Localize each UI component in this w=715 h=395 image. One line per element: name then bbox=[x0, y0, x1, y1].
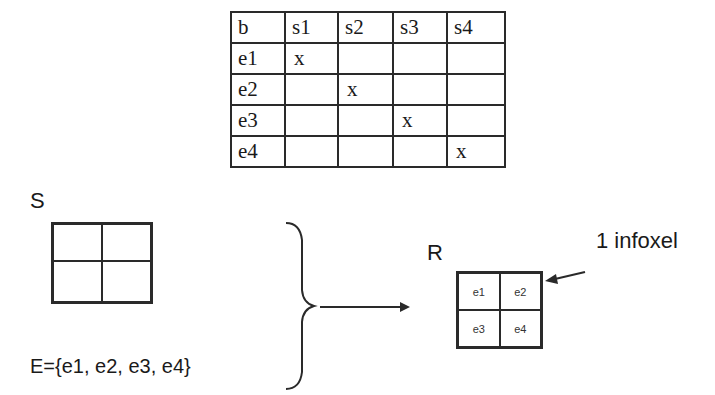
space-r-grid: e1 e2 e3 e4 bbox=[456, 271, 543, 349]
mapping-arrow-icon bbox=[320, 302, 410, 312]
infoxel-label: 1 infoxel bbox=[596, 228, 678, 254]
curly-brace-icon bbox=[286, 223, 314, 389]
r-grid-cell: e1 bbox=[458, 273, 500, 310]
r-grid-cell: e4 bbox=[500, 310, 542, 347]
r-grid-cell: e3 bbox=[458, 310, 500, 347]
r-grid-cell: e2 bbox=[500, 273, 542, 310]
infoxel-pointer-arrow-icon bbox=[545, 272, 585, 284]
connectors bbox=[0, 0, 715, 395]
diagram-canvas: b s1 s2 s3 s4 e1 x e2 x e3 x e4 bbox=[0, 0, 715, 395]
space-r-label: R bbox=[427, 240, 443, 266]
